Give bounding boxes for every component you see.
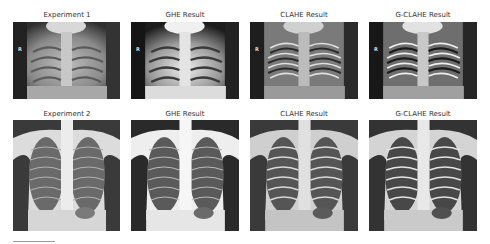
xray-image-r2-original bbox=[13, 120, 120, 231]
xray-image-r2-ghe bbox=[131, 120, 239, 231]
r-marker: R bbox=[18, 46, 22, 52]
r-marker: R bbox=[374, 46, 378, 52]
r-marker: R bbox=[136, 46, 140, 52]
xray-image-r1-original: R bbox=[13, 22, 120, 99]
panel-title-r2-original: Experiment 2 bbox=[13, 110, 121, 119]
panel-title-r1-ghe: GHE Result bbox=[131, 11, 239, 20]
panel-title-r2-gclahe: G-CLAHE Result bbox=[369, 110, 477, 119]
panel-title-r1-clahe: CLAHE Result bbox=[250, 11, 358, 20]
footnote-rule bbox=[13, 241, 55, 242]
xray-image-r2-gclahe bbox=[369, 120, 477, 231]
panel-title-r1-original: Experiment 1 bbox=[13, 11, 121, 20]
xray-image-r1-clahe: R bbox=[250, 22, 358, 99]
xray-image-r2-clahe bbox=[250, 120, 358, 231]
xray-image-r1-ghe: R bbox=[131, 22, 239, 99]
panel-title-r1-gclahe: G-CLAHE Result bbox=[369, 11, 477, 20]
panel-title-r2-clahe: CLAHE Result bbox=[250, 110, 358, 119]
xray-image-r1-gclahe: R bbox=[369, 22, 477, 99]
r-marker: R bbox=[255, 46, 259, 52]
panel-title-r2-ghe: GHE Result bbox=[131, 110, 239, 119]
